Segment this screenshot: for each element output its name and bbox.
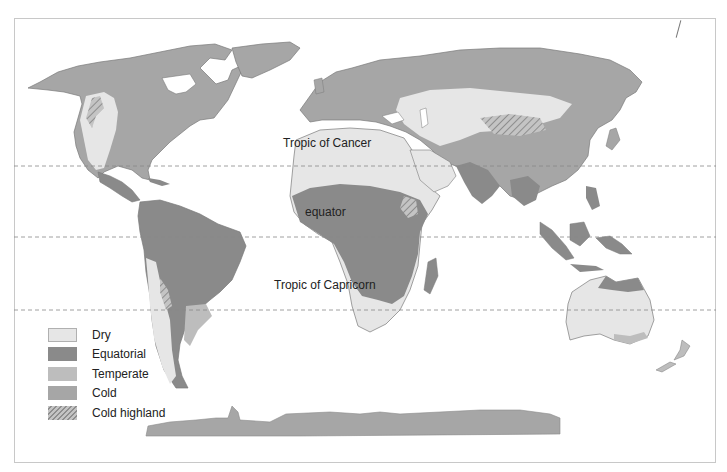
swatch-equatorial bbox=[48, 347, 77, 361]
legend-item-equatorial: Equatorial bbox=[48, 345, 165, 365]
indonesia bbox=[540, 186, 632, 272]
legend-item-dry: Dry bbox=[48, 325, 165, 345]
swatch-temperate bbox=[48, 367, 77, 381]
australia bbox=[566, 276, 690, 372]
legend: Dry Equatorial Temperate Cold Cold highl… bbox=[48, 325, 165, 423]
legend-item-temperate: Temperate bbox=[48, 364, 165, 384]
legend-label: Equatorial bbox=[92, 347, 146, 361]
antarctica bbox=[146, 406, 560, 436]
legend-item-cold: Cold bbox=[48, 384, 165, 404]
legend-label: Dry bbox=[92, 328, 111, 342]
swatch-cold-highland bbox=[48, 406, 77, 420]
swatch-cold bbox=[48, 386, 77, 400]
tropic-of-cancer-label: Tropic of Cancer bbox=[283, 136, 371, 150]
legend-label: Cold highland bbox=[92, 406, 165, 420]
swatch-dry bbox=[48, 328, 77, 342]
legend-label: Cold bbox=[92, 386, 117, 400]
tropic-of-capricorn-label: Tropic of Capricorn bbox=[274, 278, 376, 292]
legend-label: Temperate bbox=[92, 367, 149, 381]
equator-label: equator bbox=[305, 205, 346, 219]
africa bbox=[290, 128, 456, 332]
north-america bbox=[28, 42, 300, 202]
legend-item-cold-highland: Cold highland bbox=[48, 403, 165, 423]
